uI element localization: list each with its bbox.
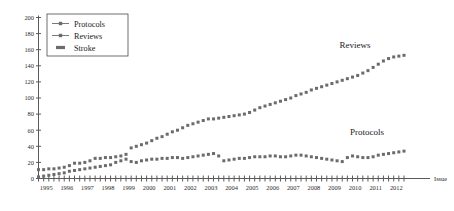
data-point — [130, 146, 133, 149]
data-point — [94, 157, 97, 160]
x-tick-label: 2007 — [287, 184, 301, 191]
data-point — [197, 121, 200, 124]
data-point — [269, 154, 272, 157]
legend-label: Reviews — [74, 32, 102, 41]
data-point — [114, 155, 117, 158]
data-point — [155, 158, 158, 161]
x-tick-label: 2003 — [205, 184, 218, 191]
data-point — [253, 109, 256, 112]
data-point — [63, 166, 66, 169]
data-point — [217, 117, 220, 120]
x-tick-label: 2002 — [184, 184, 197, 191]
series-reviews — [37, 54, 406, 171]
data-point — [73, 162, 76, 165]
data-point — [88, 167, 91, 170]
data-point — [78, 162, 81, 165]
x-tick-label: 1996 — [60, 184, 73, 191]
data-point — [37, 175, 40, 178]
data-point — [52, 167, 55, 170]
data-point — [238, 157, 241, 160]
data-point — [119, 154, 122, 157]
data-point — [233, 114, 236, 117]
data-point — [145, 142, 148, 145]
data-point — [248, 111, 251, 114]
data-point — [83, 161, 86, 164]
x-tick-label: 1998 — [102, 184, 115, 191]
data-point — [392, 151, 395, 154]
data-point — [150, 158, 153, 161]
data-point — [300, 154, 303, 157]
data-point — [222, 159, 225, 162]
x-tick-label: 1995 — [40, 184, 53, 191]
data-point — [397, 55, 400, 58]
data-point — [63, 171, 66, 174]
legend-label: Protocols — [74, 20, 105, 29]
data-point — [238, 113, 241, 116]
data-point — [336, 80, 339, 83]
data-point — [140, 159, 143, 162]
data-point — [351, 154, 354, 157]
y-tick-label: 120 — [24, 78, 34, 85]
data-point — [264, 155, 267, 158]
data-point — [351, 76, 354, 79]
data-point — [346, 77, 349, 80]
data-point — [191, 122, 194, 125]
data-point — [114, 161, 117, 164]
data-point — [83, 167, 86, 170]
data-point — [47, 167, 50, 170]
data-point — [227, 158, 230, 161]
data-point — [279, 100, 282, 103]
data-point — [186, 156, 189, 159]
data-point — [222, 116, 225, 119]
data-point — [346, 156, 349, 159]
data-point — [300, 92, 303, 95]
line-chart: 0204060801001201401601802001995199619971… — [0, 0, 454, 211]
data-point — [310, 88, 313, 91]
data-point — [212, 117, 215, 120]
data-point — [150, 139, 153, 142]
data-point — [310, 155, 313, 158]
data-point — [104, 164, 107, 167]
data-point — [104, 156, 107, 159]
data-point — [207, 117, 210, 120]
data-point — [305, 91, 308, 94]
data-point — [119, 159, 122, 162]
data-point — [243, 113, 246, 116]
data-point — [258, 106, 261, 109]
data-point — [387, 57, 390, 60]
y-tick-label: 80 — [28, 110, 34, 117]
annotation-reviews: Reviews — [340, 40, 371, 50]
x-tick-label: 2008 — [308, 184, 321, 191]
x-tick-label: 2000 — [143, 184, 156, 191]
data-point — [320, 85, 323, 88]
data-point — [109, 163, 112, 166]
data-point — [181, 157, 184, 160]
data-point — [341, 79, 344, 82]
data-point — [366, 156, 369, 159]
data-point — [78, 168, 81, 171]
chart-container: 0204060801001201401601802001995199619971… — [0, 0, 454, 211]
data-point — [258, 155, 261, 158]
data-point — [130, 160, 133, 163]
series-protocols — [37, 150, 406, 179]
data-point — [361, 156, 364, 159]
data-point — [125, 158, 128, 161]
y-tick-label: 200 — [24, 14, 34, 21]
legend-marker-icon — [59, 22, 62, 25]
data-point — [207, 153, 210, 156]
data-point — [47, 174, 50, 177]
data-point — [135, 145, 138, 148]
y-tick-label: 160 — [24, 46, 34, 53]
data-point — [325, 158, 328, 161]
x-tick-label: 2005 — [246, 184, 259, 191]
data-point — [366, 69, 369, 72]
data-point — [227, 115, 230, 118]
data-point — [99, 157, 102, 160]
data-point — [58, 167, 61, 170]
data-point — [361, 72, 364, 75]
data-point — [42, 168, 45, 171]
data-point — [161, 135, 164, 138]
data-point — [325, 84, 328, 87]
data-point — [52, 173, 55, 176]
data-point — [135, 161, 138, 164]
